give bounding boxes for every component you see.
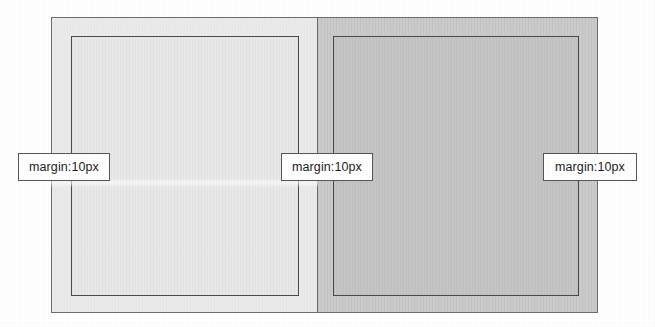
callout-middle-margin: margin:10px — [281, 153, 373, 181]
box-model-margin-figure: margin and padding margin:10px margin:10… — [0, 0, 655, 327]
callout-left-margin: margin:10px — [18, 153, 110, 181]
callout-right-margin: margin:10px — [543, 153, 637, 181]
